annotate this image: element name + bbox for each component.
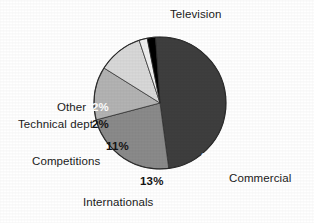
slice-label-other: Other — [57, 101, 86, 113]
slice-value-other: 2% — [92, 101, 109, 113]
slice-value-television: 49% — [155, 25, 179, 37]
slice-value-internationals: 13% — [140, 175, 164, 187]
slice-label-competitions: Competitions — [32, 155, 100, 167]
slice-label-internationals: Internationals — [83, 196, 153, 208]
slice-label-television: Television — [170, 8, 222, 20]
slice-label-commercial: Commercial — [229, 172, 291, 184]
slice-value-commercial: 23% — [201, 151, 225, 163]
slice-value-competitions: 11% — [106, 140, 129, 152]
slice-label-technical-dept: Technical dept — [18, 118, 93, 130]
slice-value-technical-dept: 2% — [92, 118, 109, 130]
pie-chart-figure: Television Commercial Internationals Com… — [0, 0, 314, 223]
